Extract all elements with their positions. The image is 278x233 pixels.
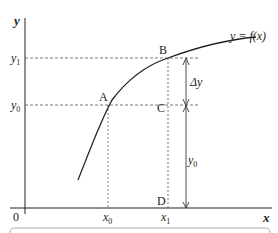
y0-tick-label: y0 [10, 98, 20, 114]
function-increment-diagram: y x 0 y1 y0 x0 x1 A B C D y = f(x) Δy y0 [0, 0, 278, 233]
function-curve [78, 37, 256, 180]
x1-tick-label: x1 [160, 210, 170, 226]
y0-measure-label: y0 [187, 153, 197, 169]
x-axis-label: x [262, 210, 270, 225]
point-c-label: C [157, 101, 165, 115]
point-b-label: B [159, 43, 167, 57]
point-d-label: D [157, 194, 166, 208]
x0-tick-label: x0 [102, 210, 112, 226]
y1-tick-label: y1 [10, 51, 20, 67]
y-axis-label: y [12, 13, 20, 28]
point-a-label: A [99, 90, 108, 104]
curve-label: y = f(x) [229, 29, 266, 43]
caption-box-outline [10, 228, 270, 233]
delta-y-measure-label: Δy [189, 75, 203, 89]
origin-label: 0 [13, 210, 19, 224]
